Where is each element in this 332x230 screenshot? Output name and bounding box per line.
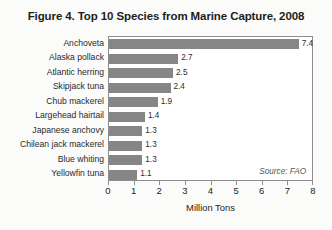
x-tick-label: 5: [233, 185, 238, 196]
bars-container: 7.42.72.52.41.91.41.31.31.31.1: [109, 37, 312, 180]
bar-value-label: 1.1: [140, 169, 151, 179]
bar: [109, 83, 171, 93]
figure-container: Figure 4. Top 10 Species from Marine Cap…: [0, 0, 332, 230]
category-label: Anchoveta: [0, 38, 104, 48]
bar-value-label: 2.5: [176, 68, 187, 78]
category-label: Largehead hairtail: [0, 110, 104, 120]
bar: [109, 54, 178, 64]
page-title: Figure 4. Top 10 Species from Marine Cap…: [0, 10, 332, 22]
category-label: Atlantic herring: [0, 67, 104, 77]
bar: [109, 126, 142, 136]
bar-value-label: 2.7: [181, 53, 192, 63]
category-label: Chub mackerel: [0, 96, 104, 106]
bar-value-label: 1.3: [145, 155, 156, 165]
category-label: Chilean jack mackerel: [0, 139, 104, 149]
category-label: Skipjack tuna: [0, 81, 104, 91]
bar-value-label: 1.9: [161, 97, 172, 107]
x-tick-label: 0: [105, 185, 110, 196]
category-label: Yellowfin tuna: [0, 168, 104, 178]
x-axis-tick-labels: 012345678: [108, 185, 313, 199]
x-tick-label: 3: [182, 185, 187, 196]
bar-value-label: 7.4: [302, 39, 313, 49]
category-label: Blue whiting: [0, 154, 104, 164]
bar: [109, 155, 142, 165]
source-note: Source: FAO: [259, 167, 306, 176]
bar: [109, 141, 142, 151]
x-tick-label: 1: [131, 185, 136, 196]
bar: [109, 97, 158, 107]
bar-value-label: 2.4: [174, 82, 185, 92]
x-tick-label: 6: [259, 185, 264, 196]
plot-area: 7.42.72.52.41.91.41.31.31.31.1 Source: F…: [108, 36, 313, 181]
bar: [109, 112, 145, 122]
x-tick-label: 7: [285, 185, 290, 196]
bar: [109, 39, 299, 49]
category-axis-labels: AnchovetaAlaska pollackAtlantic herringS…: [0, 36, 104, 181]
category-label: Japanese anchovy: [0, 125, 104, 135]
bar-value-label: 1.4: [148, 111, 159, 121]
bar-value-label: 1.3: [145, 140, 156, 150]
bar: [109, 68, 173, 78]
bar-value-label: 1.3: [145, 126, 156, 136]
bar: [109, 170, 137, 180]
x-tick-label: 8: [310, 185, 315, 196]
category-label: Alaska pollack: [0, 52, 104, 62]
x-tick-label: 2: [157, 185, 162, 196]
x-tick-label: 4: [208, 185, 213, 196]
x-axis-title: Million Tons: [108, 202, 313, 213]
